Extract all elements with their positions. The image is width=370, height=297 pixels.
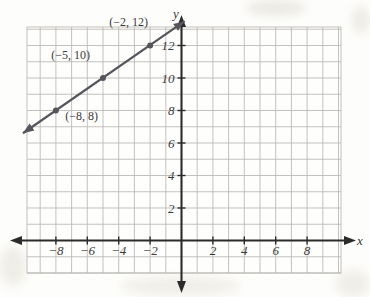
x-tick-label: 6: [272, 243, 279, 258]
x-tick-label: −8: [48, 243, 64, 258]
grid-lines: [27, 27, 341, 273]
grid-border: [27, 27, 341, 273]
y-tick-label: 6: [168, 136, 175, 151]
y-tick-label: 2: [168, 201, 175, 216]
x-axis-label: x: [356, 233, 363, 248]
x-tick-label: 2: [210, 243, 217, 258]
y-axis-bottom-arrowhead: [177, 281, 186, 293]
x-tick-label: −6: [80, 243, 96, 258]
data-point: [53, 108, 59, 114]
y-tick-label: 4: [168, 168, 175, 183]
x-axis-left-arrowhead: [10, 236, 22, 245]
coordinate-plane: −8−6−4−22468 24681012 x y (−2, 12)(−5, 1…: [0, 0, 370, 297]
data-point: [100, 75, 106, 81]
y-tick-label: 10: [162, 71, 176, 86]
y-axis-label: y: [171, 6, 179, 21]
y-tick-label: 8: [168, 103, 175, 118]
x-tick-label: −4: [111, 243, 127, 258]
point-label: (−8, 8): [65, 109, 98, 123]
point-label: (−5, 10): [51, 48, 90, 62]
data-point: [147, 43, 153, 49]
x-tick-label: 4: [241, 243, 248, 258]
x-axis-right-arrowhead: [344, 236, 356, 245]
x-tick-label: −2: [142, 243, 158, 258]
graph-figure: −8−6−4−22468 24681012 x y (−2, 12)(−5, 1…: [0, 0, 370, 297]
y-tick-label: 12: [162, 38, 176, 53]
x-tick-label: 8: [304, 243, 311, 258]
point-label: (−2, 12): [109, 15, 148, 29]
